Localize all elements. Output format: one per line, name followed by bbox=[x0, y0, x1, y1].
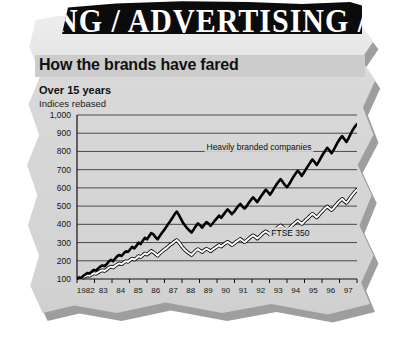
y-axis-tick-label: 500 bbox=[57, 201, 71, 211]
x-axis-tick-label: 94 bbox=[291, 286, 300, 295]
series-label: Heavily branded companies bbox=[207, 142, 312, 152]
x-axis-tick-label: 1982 bbox=[77, 286, 95, 295]
torn-paper-clipping: NG / ADVERTISING / How the brands have f… bbox=[0, 0, 403, 340]
y-axis-tick-label: 200 bbox=[57, 256, 71, 266]
x-axis-tick-label: 95 bbox=[309, 286, 318, 295]
x-axis-tick-label: 91 bbox=[239, 286, 248, 295]
x-axis-tick-label: 96 bbox=[326, 286, 335, 295]
y-axis-tick-label: 700 bbox=[57, 165, 71, 175]
page-title: How the brands have fared bbox=[39, 56, 239, 74]
x-axis-tick-label: 90 bbox=[221, 286, 230, 295]
y-axis-tick-label: 300 bbox=[57, 238, 71, 248]
figure-block: Over 15 years Indices rebased 1002003004… bbox=[35, 84, 365, 308]
x-axis-tick-label: 85 bbox=[134, 286, 143, 295]
x-axis-tick-label: 92 bbox=[256, 286, 265, 295]
series-line-ftse-350-outline bbox=[77, 190, 357, 279]
line-chart: 1002003004005006007008009001,00019828384… bbox=[35, 111, 365, 301]
x-axis-tick-label: 88 bbox=[186, 286, 195, 295]
series-label: FTSE 350 bbox=[271, 228, 310, 238]
chart-plot-area: 1002003004005006007008009001,00019828384… bbox=[35, 111, 365, 301]
x-axis-tick-label: 89 bbox=[204, 286, 213, 295]
x-axis-tick-label: 83 bbox=[99, 286, 108, 295]
figure-note: Indices rebased bbox=[39, 98, 106, 109]
y-axis-tick-label: 100 bbox=[57, 274, 71, 284]
newspaper-clipping-page: NG / ADVERTISING / How the brands have f… bbox=[0, 0, 403, 340]
x-axis-tick-label: 84 bbox=[116, 286, 125, 295]
masthead-banner: NG / ADVERTISING / bbox=[62, 0, 362, 34]
x-axis-tick-label: 93 bbox=[274, 286, 283, 295]
y-axis-tick-label: 400 bbox=[57, 219, 71, 229]
y-axis-tick-label: 900 bbox=[57, 128, 71, 138]
x-axis-tick-label: 87 bbox=[169, 286, 178, 295]
x-axis-tick-label: 86 bbox=[151, 286, 160, 295]
series-line-ftse-350 bbox=[77, 190, 357, 279]
y-axis-tick-label: 800 bbox=[57, 146, 71, 156]
y-axis-tick-label: 1,000 bbox=[50, 111, 72, 120]
x-axis-tick-label: 97 bbox=[344, 286, 353, 295]
y-axis-tick-label: 600 bbox=[57, 183, 71, 193]
figure-subtitle: Over 15 years bbox=[39, 84, 111, 96]
masthead-text: NG / ADVERTISING / bbox=[62, 1, 362, 34]
